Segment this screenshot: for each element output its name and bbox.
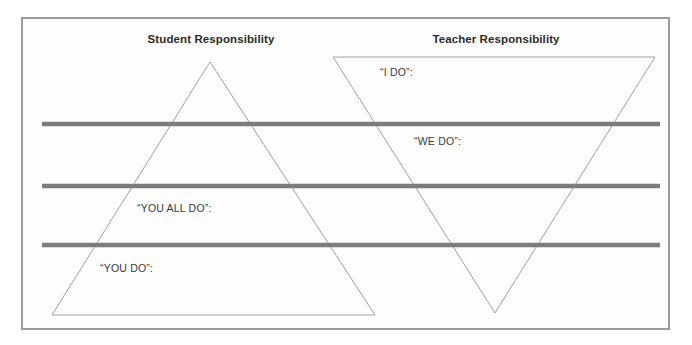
phase-label-you-all-do: “YOU ALL DO”: — [137, 202, 212, 214]
phase-label-you-do: “YOU DO”: — [100, 262, 153, 274]
phase-label-we-do: “WE DO”: — [414, 135, 461, 147]
diagram-frame — [21, 17, 670, 330]
gradual-release-diagram: Student Responsibility Teacher Responsib… — [0, 0, 692, 345]
phase-label-i-do: “I DO”: — [380, 66, 413, 78]
teacher-responsibility-title: Teacher Responsibility — [432, 33, 559, 45]
student-responsibility-title: Student Responsibility — [148, 33, 275, 45]
